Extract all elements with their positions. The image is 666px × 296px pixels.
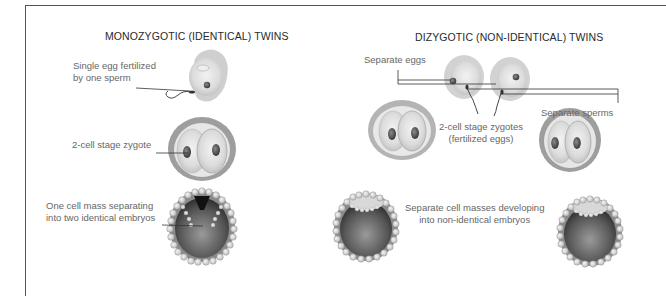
dizygotic-title: DIZYGOTIC (NON-IDENTICAL) TWINS [415, 31, 603, 43]
single-egg-label-line1: Single egg fertilized [73, 60, 156, 72]
two-cell-zygotes-label-line2: (fertilized eggs) [439, 133, 523, 145]
single-egg-label: Single egg fertilized by one sperm [73, 60, 156, 84]
two-cell-zygotes-label-line1: 2-cell stage zygotes [439, 121, 523, 133]
one-cell-mass-label: One cell mass separating into two identi… [46, 200, 155, 224]
separate-egg-left-icon [444, 55, 484, 99]
separate-cell-masses-label-line1: Separate cell masses developing [405, 202, 544, 214]
blastocyst-separating-icon [167, 188, 238, 266]
separate-cell-masses-label: Separate cell masses developing into non… [405, 202, 544, 226]
single-egg-label-line2: by one sperm [73, 72, 156, 84]
two-cell-zygotes-label: 2-cell stage zygotes (fertilized eggs) [439, 121, 523, 145]
sperm-icon [166, 90, 195, 98]
one-cell-mass-label-line2: into two identical embryos [46, 212, 155, 224]
two-cell-zygote-left-icon [368, 100, 436, 160]
separate-eggs-label: Separate eggs [364, 54, 426, 66]
separate-sperms-label: Separate sperms [541, 107, 613, 119]
monozygotic-title: MONOZYGOTIC (IDENTICAL) TWINS [105, 30, 289, 42]
two-cell-zygote-icon [168, 117, 236, 181]
blastocyst-left-icon [333, 191, 399, 262]
pointer-line [136, 88, 190, 91]
one-cell-mass-label-line1: One cell mass separating [46, 200, 155, 212]
separate-cell-masses-label-line2: into non-identical embryos [405, 214, 544, 226]
two-cell-zygote-label: 2-cell stage zygote [72, 139, 151, 151]
blastocyst-right-icon [557, 196, 623, 267]
single-egg-icon [189, 49, 228, 101]
